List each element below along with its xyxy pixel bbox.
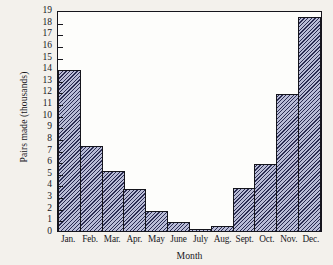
y-tick-mark — [58, 221, 63, 222]
x-tick-label: May — [145, 234, 167, 245]
x-tick-label: Apr. — [123, 234, 145, 245]
y-tick-mark — [58, 105, 63, 106]
y-tick-label: 10 — [22, 111, 52, 121]
y-tick-label: 5 — [22, 169, 52, 179]
x-axis-label: Month — [57, 250, 322, 261]
y-tick-mark — [58, 70, 63, 71]
bar[interactable] — [167, 222, 190, 231]
bar-chart-figure: Pairs made (thousands) 01234567891011121… — [0, 0, 333, 265]
y-tick-mark — [58, 128, 63, 129]
y-tick-label: 3 — [22, 192, 52, 202]
y-tick-mark — [58, 140, 63, 141]
x-tick-label: Sept. — [234, 234, 256, 245]
bar[interactable] — [276, 94, 299, 231]
y-tick-label: 16 — [22, 41, 52, 51]
bar[interactable] — [123, 189, 146, 231]
x-tick-label: June — [167, 234, 189, 245]
y-tick-mark — [58, 186, 63, 187]
y-tick-mark — [58, 198, 63, 199]
y-tick-label: 4 — [22, 181, 52, 191]
x-tick-label: Oct. — [256, 234, 278, 245]
y-tick-mark — [58, 117, 63, 118]
x-tick-label: Dec. — [300, 234, 322, 245]
y-tick-mark — [58, 93, 63, 94]
x-tick-label: July — [189, 234, 211, 245]
bar[interactable] — [80, 146, 103, 231]
bar[interactable] — [102, 171, 125, 231]
y-tick-label: 2 — [22, 204, 52, 214]
y-tick-mark — [58, 24, 63, 25]
x-tick-label: Nov. — [278, 234, 300, 245]
y-tick-mark — [58, 35, 63, 36]
y-tick-label: 8 — [22, 134, 52, 144]
x-tick-label: Aug. — [212, 234, 234, 245]
bar-series — [58, 12, 321, 231]
y-tick-mark — [58, 152, 63, 153]
y-tick-mark — [58, 82, 63, 83]
y-tick-label: 18 — [22, 18, 52, 28]
x-axis-tick-labels: Jan.Feb.Mar.Apr.MayJuneJulyAug.Sept.Oct.… — [57, 234, 322, 245]
bar[interactable] — [145, 211, 168, 231]
y-tick-mark — [58, 47, 63, 48]
bar[interactable] — [189, 229, 212, 231]
y-tick-label: 1 — [22, 216, 52, 226]
bar[interactable] — [233, 188, 256, 231]
y-tick-label: 0 — [22, 227, 52, 237]
y-tick-mark — [58, 210, 63, 211]
x-tick-label: Feb. — [79, 234, 101, 245]
y-tick-label: 6 — [22, 157, 52, 167]
bar[interactable] — [211, 226, 234, 231]
y-axis-tick-labels: 012345678910111213141516171819 — [22, 11, 52, 232]
y-tick-mark — [58, 59, 63, 60]
y-tick-label: 19 — [22, 6, 52, 16]
y-tick-label: 9 — [22, 123, 52, 133]
y-tick-mark — [58, 175, 63, 176]
y-tick-label: 14 — [22, 64, 52, 74]
y-tick-label: 11 — [22, 99, 52, 109]
y-tick-label: 13 — [22, 76, 52, 86]
plot-area — [57, 11, 322, 232]
y-tick-label: 7 — [22, 146, 52, 156]
bar[interactable] — [298, 17, 321, 231]
x-tick-label: Mar. — [101, 234, 123, 245]
y-tick-label: 17 — [22, 30, 52, 40]
y-tick-label: 15 — [22, 53, 52, 63]
y-tick-mark — [58, 163, 63, 164]
x-tick-label: Jan. — [57, 234, 79, 245]
y-tick-label: 12 — [22, 88, 52, 98]
bar[interactable] — [254, 164, 277, 231]
